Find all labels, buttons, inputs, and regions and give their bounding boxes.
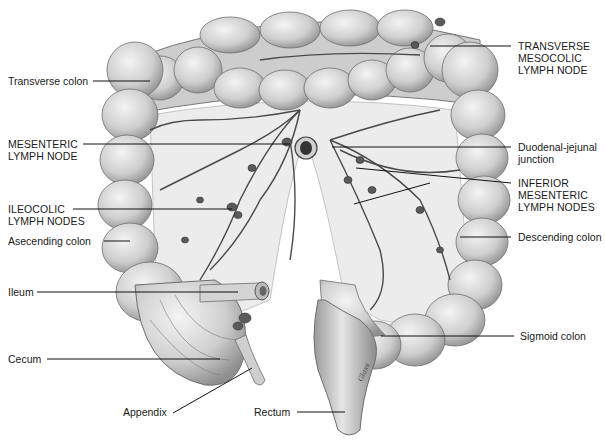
label-duodenal-jejunal-junction: Duodenal-jejunal junction xyxy=(518,141,597,165)
label-sigmoid-colon: Sigmoid colon xyxy=(520,330,586,342)
label-transverse-colon: Transverse colon xyxy=(8,75,88,87)
label-transverse-mesocolic-lymph-node: TRANSVERSE MESOCOLIC LYMPH NODE xyxy=(518,40,590,76)
label-ileum: Ileum xyxy=(8,286,34,298)
label-cecum: Cecum xyxy=(8,353,41,365)
label-rectum: Rectum xyxy=(254,406,290,418)
duodenal-jejunal-junction xyxy=(295,137,317,159)
label-ascending-colon: Asecending colon xyxy=(8,235,91,247)
colon-illustration: Glass xyxy=(0,0,605,441)
label-appendix: Appendix xyxy=(123,406,167,418)
label-inferior-mesenteric-lymph-nodes: INFERIOR MESENTERIC LYMPH NODES xyxy=(518,177,595,213)
label-descending-colon: Descending colon xyxy=(518,231,601,243)
label-ileocolic-lymph-nodes: ILEOCOLIC LYMPH NODES xyxy=(8,203,85,227)
label-mesenteric-lymph-node: MESENTERIC LYMPH NODE xyxy=(8,138,78,162)
transverse-colon xyxy=(130,10,480,115)
